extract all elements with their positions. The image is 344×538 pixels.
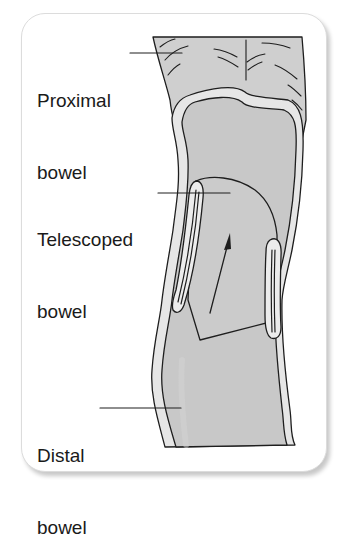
right-fold — [265, 239, 281, 339]
label-line: Telescoped — [37, 228, 133, 252]
telescoped-bowel-label: Telescoped bowel — [37, 180, 133, 348]
label-line: Proximal — [37, 89, 111, 113]
label-line: bowel — [37, 516, 87, 538]
distal-bowel-label: Distal bowel — [37, 396, 87, 538]
label-line: bowel — [37, 300, 133, 324]
label-line: Distal — [37, 444, 87, 468]
